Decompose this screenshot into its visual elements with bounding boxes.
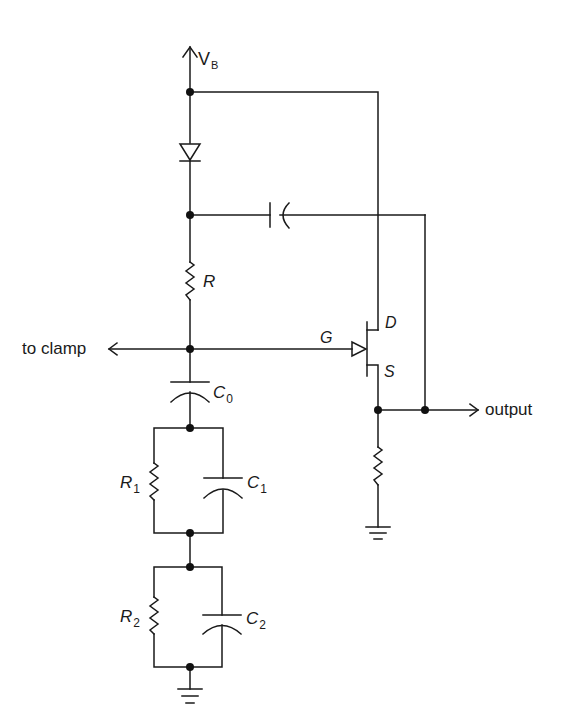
drain-label: D xyxy=(385,315,397,331)
jfet-icon xyxy=(352,322,378,410)
r1-label: R1 xyxy=(120,474,140,491)
gate-label: G xyxy=(320,330,332,346)
ground-icon xyxy=(178,667,202,703)
c2-label: C2 xyxy=(246,610,266,627)
supply-arrow-icon xyxy=(183,47,197,92)
c0-label: C0 xyxy=(213,384,233,401)
source-resistor-icon xyxy=(374,410,382,527)
resistor-r-label: R xyxy=(203,273,215,290)
schematic-drawing xyxy=(0,0,569,722)
supply-label: VB xyxy=(198,50,218,68)
r1-label-sub: 1 xyxy=(133,482,140,496)
resistor-r2-icon xyxy=(150,597,158,634)
r2-c2-network xyxy=(154,567,222,667)
supply-label-sub: B xyxy=(211,59,218,71)
c1-label-sub: 1 xyxy=(260,482,267,496)
diode-icon xyxy=(180,144,200,161)
to-clamp-label: to clamp xyxy=(22,340,86,357)
resistor-r1-icon xyxy=(150,463,158,500)
r2-label-sub: 2 xyxy=(133,616,140,630)
r2-label: R2 xyxy=(120,608,140,625)
gate-wire xyxy=(109,343,352,355)
bootstrap-capacitor-icon xyxy=(190,203,425,228)
r1-c1-network xyxy=(154,428,223,533)
source-label: S xyxy=(384,364,395,380)
c2-label-sub: 2 xyxy=(259,618,266,632)
c2-label-main: C xyxy=(246,609,258,628)
r2-label-main: R xyxy=(120,607,132,626)
r1-label-main: R xyxy=(120,473,132,492)
supply-label-main: V xyxy=(198,49,210,69)
c1-label: C1 xyxy=(247,474,267,491)
circuit-diagram: VB R to clamp G D S output C0 R1 C1 R2 C… xyxy=(0,0,569,722)
ground-icon xyxy=(366,527,390,539)
c0-label-main: C xyxy=(213,383,225,402)
output-label: output xyxy=(485,401,532,418)
resistor-r-icon xyxy=(186,262,194,300)
c0-label-sub: 0 xyxy=(226,392,233,406)
c1-label-main: C xyxy=(247,473,259,492)
